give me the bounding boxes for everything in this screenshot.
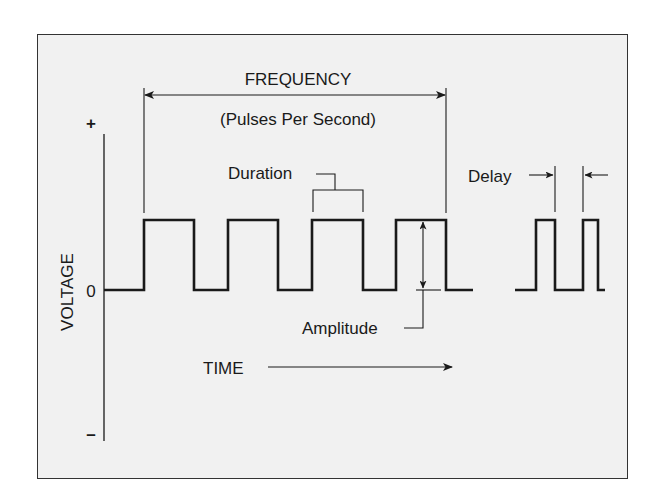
amplitude-leader bbox=[404, 290, 423, 328]
delay-pulse-train bbox=[515, 220, 605, 290]
frequency-label: FREQUENCY bbox=[245, 70, 352, 89]
zero-label: 0 bbox=[86, 282, 95, 301]
duration-label: Duration bbox=[228, 164, 292, 183]
delay-label: Delay bbox=[468, 167, 512, 186]
plus-label: + bbox=[86, 114, 96, 133]
duration-bracket bbox=[313, 190, 363, 212]
pulse-train bbox=[104, 220, 473, 290]
duration-leader bbox=[316, 174, 335, 190]
frequency-sublabel: (Pulses Per Second) bbox=[220, 110, 376, 129]
amplitude-label: Amplitude bbox=[302, 319, 378, 338]
voltage-label: VOLTAGE bbox=[58, 253, 77, 331]
time-label: TIME bbox=[203, 359, 244, 378]
minus-label: – bbox=[86, 425, 95, 444]
pulse-diagram: + 0 – VOLTAGE FREQUENCY (Pulses Per Seco… bbox=[0, 0, 665, 504]
